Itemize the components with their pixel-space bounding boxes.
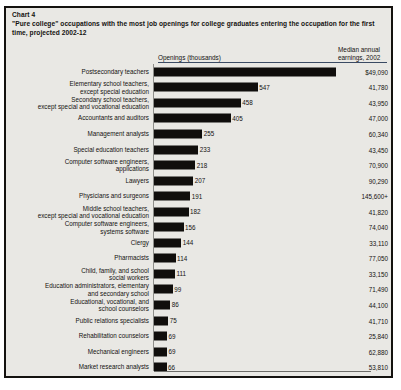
category-label: Computer software engineers, application… bbox=[21, 158, 149, 173]
bar bbox=[154, 347, 167, 356]
category-label: Elementary school teachers, except speci… bbox=[21, 80, 149, 95]
median-earnings-value: 77,050 bbox=[338, 255, 388, 262]
bar-value-label: 255 bbox=[202, 130, 214, 137]
bar bbox=[154, 176, 193, 185]
category-label: Management analysts bbox=[21, 130, 149, 137]
chart-row: Child, family, and school social workers… bbox=[6, 266, 391, 282]
median-earnings-value: 25,840 bbox=[338, 333, 388, 340]
median-earnings-value: $49,090 bbox=[338, 68, 388, 75]
bar-value-label: 86 bbox=[170, 301, 179, 308]
chart-panel: Chart 4 "Pure college" occupations with … bbox=[4, 6, 393, 378]
category-label: Education administrators, elementary and… bbox=[21, 282, 149, 297]
category-label: Physicians and surgeons bbox=[21, 192, 149, 199]
bar bbox=[154, 207, 189, 216]
chart-row: Mechanical engineers6962,880 bbox=[6, 344, 391, 360]
median-earnings-value: 44,100 bbox=[338, 301, 388, 308]
median-earnings-value: 41,820 bbox=[338, 208, 388, 215]
bar-value-label: 547 bbox=[258, 84, 270, 91]
chart-row: Computer software engineers, application… bbox=[6, 157, 391, 173]
chart-row: Lawyers20790,290 bbox=[6, 173, 391, 189]
value-axis-baseline bbox=[154, 371, 371, 372]
chart-row: Pharmacists11477,050 bbox=[6, 251, 391, 267]
bar bbox=[154, 316, 168, 325]
category-label: Postsecondary teachers bbox=[21, 68, 149, 75]
category-label: Secondary school teachers, except specia… bbox=[21, 95, 149, 110]
column-header-earnings: Median annual earnings, 2002 bbox=[338, 46, 394, 62]
bar-value-label: 144 bbox=[181, 239, 193, 246]
bar bbox=[154, 254, 176, 263]
bar bbox=[154, 83, 258, 92]
median-earnings-value: 90,290 bbox=[338, 177, 388, 184]
column-headers: Openings (thousands) Median annual earni… bbox=[6, 41, 391, 63]
chart-row: Postsecondary teachers960$49,090 bbox=[6, 64, 391, 80]
bar-value-label: 111 bbox=[175, 270, 186, 277]
chart-row: Accountants and auditors40547,000 bbox=[6, 111, 391, 127]
bar-value-label: 405 bbox=[231, 115, 243, 122]
chart-number-label: Chart 4 bbox=[12, 11, 385, 19]
chart-row: Computer software engineers, systems sof… bbox=[6, 219, 391, 235]
category-label: Child, family, and school social workers bbox=[21, 266, 149, 281]
bar-value-label: 66 bbox=[167, 364, 176, 371]
median-earnings-value: 53,810 bbox=[338, 364, 388, 371]
category-label: Public relations specialists bbox=[21, 317, 149, 324]
median-earnings-value: 74,040 bbox=[338, 224, 388, 231]
bar bbox=[154, 300, 170, 309]
bar bbox=[154, 161, 195, 170]
bar-value-label: 69 bbox=[167, 333, 176, 340]
median-earnings-value: 43,450 bbox=[338, 146, 388, 153]
bar bbox=[154, 332, 167, 341]
category-label: Lawyers bbox=[21, 177, 149, 184]
bar-value-label: 69 bbox=[167, 348, 176, 355]
column-header-openings: Openings (thousands) bbox=[158, 54, 221, 61]
median-earnings-value: 145,600+ bbox=[338, 193, 388, 200]
chart-row: Physicians and surgeons191145,600+ bbox=[6, 188, 391, 204]
chart-row: Educational, vocational, and school coun… bbox=[6, 297, 391, 313]
bar-value-label: 458 bbox=[241, 99, 253, 106]
category-label: Educational, vocational, and school coun… bbox=[21, 298, 149, 313]
median-earnings-value: 70,900 bbox=[338, 162, 388, 169]
category-label: Clergy bbox=[21, 239, 149, 246]
category-label: Middle school teachers, except special a… bbox=[21, 204, 149, 219]
bar bbox=[154, 98, 241, 107]
bar-value-label: 233 bbox=[198, 146, 210, 153]
median-earnings-value: 41,780 bbox=[338, 84, 388, 91]
bar-value-label: 99 bbox=[173, 286, 182, 293]
chart-row: Special education teachers23343,450 bbox=[6, 142, 391, 158]
bar bbox=[154, 67, 336, 76]
median-earnings-value: 62,880 bbox=[338, 348, 388, 355]
bar bbox=[154, 145, 198, 154]
bar bbox=[154, 114, 231, 123]
bar-value-label: 218 bbox=[195, 162, 207, 169]
bar-value-label: 114 bbox=[176, 255, 188, 262]
bar bbox=[154, 238, 181, 247]
median-earnings-value: 60,340 bbox=[338, 130, 388, 137]
median-earnings-value: 33,110 bbox=[338, 239, 388, 246]
chart-row: Management analysts25560,340 bbox=[6, 126, 391, 142]
median-earnings-value: 47,000 bbox=[338, 115, 388, 122]
chart-row: Secondary school teachers, except specia… bbox=[6, 95, 391, 111]
chart-row: Rehabilitation counselors6925,840 bbox=[6, 328, 391, 344]
category-label: Special education teachers bbox=[21, 146, 149, 153]
bar bbox=[154, 129, 202, 138]
median-earnings-value: 33,150 bbox=[338, 270, 388, 277]
category-label: Accountants and auditors bbox=[21, 115, 149, 122]
category-label: Pharmacists bbox=[21, 255, 149, 262]
bar-value-label: 156 bbox=[184, 224, 196, 231]
median-earnings-value: 43,950 bbox=[338, 99, 388, 106]
bar bbox=[154, 223, 184, 232]
chart-row: Public relations specialists7541,710 bbox=[6, 313, 391, 329]
chart-header: Chart 4 "Pure college" occupations with … bbox=[6, 8, 391, 38]
bar bbox=[154, 192, 190, 201]
bar-value-label: 182 bbox=[189, 208, 201, 215]
header-rule bbox=[158, 62, 387, 63]
chart-row: Education administrators, elementary and… bbox=[6, 282, 391, 298]
median-earnings-value: 71,490 bbox=[338, 286, 388, 293]
bar-value-label: 191 bbox=[190, 193, 202, 200]
category-label: Mechanical engineers bbox=[21, 348, 149, 355]
median-earnings-value: 41,710 bbox=[338, 317, 388, 324]
chart-title: "Pure college" occupations with the most… bbox=[12, 20, 385, 37]
chart-row: Middle school teachers, except special a… bbox=[6, 204, 391, 220]
category-label: Computer software engineers, systems sof… bbox=[21, 220, 149, 235]
chart-row: Market research analysts6653,810 bbox=[6, 359, 391, 375]
category-label: Rehabilitation counselors bbox=[21, 332, 149, 339]
